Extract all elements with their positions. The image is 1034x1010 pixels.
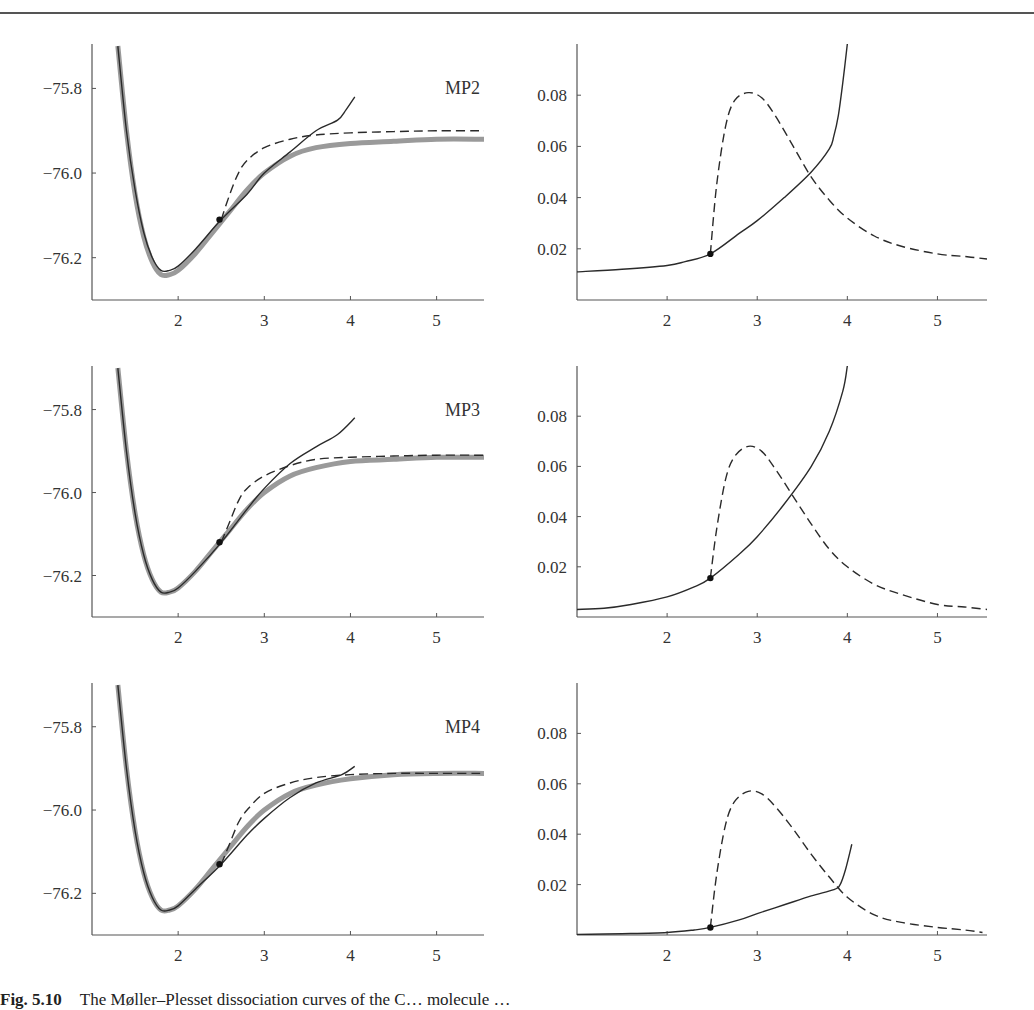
y-tick-label: 0.08 bbox=[537, 407, 567, 426]
x-tick-label: 4 bbox=[346, 311, 355, 330]
solid-curve bbox=[118, 685, 355, 911]
y-tick-label: −76.2 bbox=[43, 884, 82, 903]
x-tick-label: 2 bbox=[174, 628, 183, 647]
panel-mp4-energy: 2345−75.8−76.0−76.2MP4 bbox=[43, 683, 484, 965]
x-tick-label: 5 bbox=[432, 628, 441, 647]
panel-title: MP2 bbox=[445, 78, 480, 98]
x-tick-label: 2 bbox=[663, 628, 672, 647]
y-tick-label: −76.2 bbox=[43, 249, 82, 268]
dashed-curve bbox=[221, 773, 484, 864]
y-tick-label: 0.08 bbox=[537, 724, 567, 743]
dashed-curve bbox=[710, 791, 982, 933]
x-tick-label: 5 bbox=[933, 946, 942, 965]
reference-curve bbox=[118, 46, 484, 276]
y-tick-label: 0.02 bbox=[537, 240, 567, 259]
x-tick-label: 5 bbox=[933, 311, 942, 330]
y-tick-label: 0.06 bbox=[537, 775, 567, 794]
branch-point-marker bbox=[707, 251, 713, 257]
y-tick-label: 0.02 bbox=[537, 876, 567, 895]
x-tick-label: 4 bbox=[843, 946, 852, 965]
y-tick-label: 0.04 bbox=[537, 189, 567, 208]
y-tick-label: −76.0 bbox=[43, 801, 82, 820]
x-tick-label: 3 bbox=[753, 946, 762, 965]
y-tick-label: −75.8 bbox=[43, 79, 82, 98]
panel-mp2-energy: 2345−75.8−76.0−76.2MP2 bbox=[43, 44, 484, 330]
branch-point-marker bbox=[216, 539, 222, 545]
panel-mp2-difference: 23450.020.040.060.08 bbox=[537, 44, 987, 330]
dashed-curve bbox=[710, 446, 987, 609]
y-tick-label: 0.02 bbox=[537, 558, 567, 577]
figure-caption: Fig. 5.10The Møller–Plesset dissociation… bbox=[0, 990, 1034, 1010]
panel-mp4-difference: 23450.020.040.060.08 bbox=[537, 683, 987, 965]
branch-point-marker bbox=[216, 216, 222, 222]
panel-title: MP3 bbox=[445, 400, 480, 420]
branch-point-marker bbox=[216, 861, 222, 867]
panel-mp3-energy: 2345−75.8−76.0−76.2MP3 bbox=[43, 366, 484, 647]
panel-mp3-difference: 23450.020.040.060.08 bbox=[537, 366, 987, 647]
y-tick-label: 0.06 bbox=[537, 457, 567, 476]
x-tick-label: 3 bbox=[260, 946, 269, 965]
x-tick-label: 4 bbox=[843, 628, 852, 647]
solid-curve bbox=[577, 844, 852, 934]
y-tick-label: 0.08 bbox=[537, 86, 567, 105]
x-tick-label: 3 bbox=[260, 628, 269, 647]
x-tick-label: 5 bbox=[933, 628, 942, 647]
branch-point-marker bbox=[707, 575, 713, 581]
y-tick-label: −76.0 bbox=[43, 164, 82, 183]
y-tick-label: −76.0 bbox=[43, 484, 82, 503]
dashed-curve bbox=[710, 93, 987, 259]
caption-text: The Møller–Plesset dissociation curves o… bbox=[80, 990, 511, 1009]
caption-label: Fig. 5.10 bbox=[0, 990, 62, 1009]
y-tick-label: 0.06 bbox=[537, 137, 567, 156]
y-tick-label: 0.04 bbox=[537, 825, 567, 844]
y-tick-label: 0.04 bbox=[537, 508, 567, 527]
x-tick-label: 5 bbox=[432, 946, 441, 965]
y-tick-label: −76.2 bbox=[43, 567, 82, 586]
x-tick-label: 3 bbox=[260, 311, 269, 330]
panel-title: MP4 bbox=[445, 717, 480, 737]
x-tick-label: 3 bbox=[753, 628, 762, 647]
x-tick-label: 2 bbox=[663, 311, 672, 330]
x-tick-label: 4 bbox=[346, 946, 355, 965]
x-tick-label: 4 bbox=[843, 311, 852, 330]
x-tick-label: 2 bbox=[174, 311, 183, 330]
x-tick-label: 2 bbox=[174, 946, 183, 965]
branch-point-marker bbox=[707, 924, 713, 930]
reference-curve bbox=[118, 685, 484, 911]
solid-curve bbox=[577, 366, 847, 609]
x-tick-label: 5 bbox=[432, 311, 441, 330]
x-tick-label: 2 bbox=[663, 946, 672, 965]
x-tick-label: 4 bbox=[346, 628, 355, 647]
y-tick-label: −75.8 bbox=[43, 401, 82, 420]
y-tick-label: −75.8 bbox=[43, 718, 82, 737]
solid-curve bbox=[118, 368, 355, 593]
reference-curve bbox=[118, 368, 484, 593]
solid-curve bbox=[118, 46, 355, 271]
x-tick-label: 3 bbox=[753, 311, 762, 330]
